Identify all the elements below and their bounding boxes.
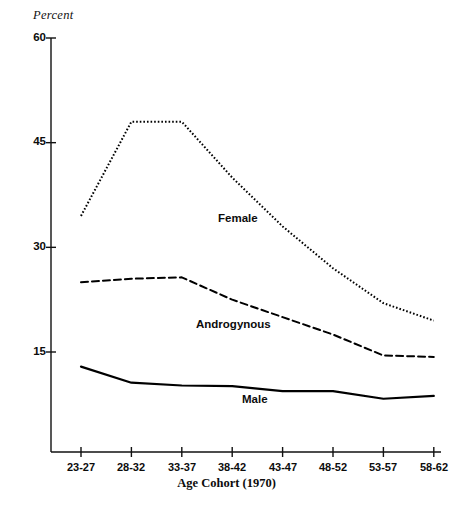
figure-chart: Percent 60 45 30 15 23-27 28-32 33-37 38…: [0, 0, 453, 507]
chart-plot-area: [0, 0, 453, 507]
series-line-female: [81, 122, 434, 321]
series-line-male: [81, 367, 434, 399]
axes-group: [51, 38, 441, 452]
series-line-androgynous: [81, 277, 434, 357]
series-lines: [81, 122, 434, 399]
